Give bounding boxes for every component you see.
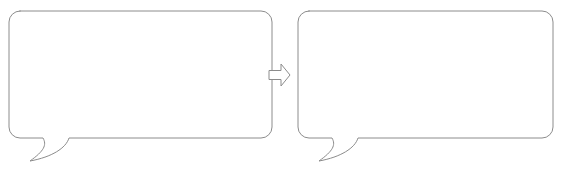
source-speech-bubble-hit-area[interactable] [9, 11, 272, 161]
transform-arrow-hit-area[interactable] [269, 64, 290, 86]
diagram-canvas [0, 0, 561, 179]
result-speech-bubble-hit-area[interactable] [298, 11, 553, 161]
